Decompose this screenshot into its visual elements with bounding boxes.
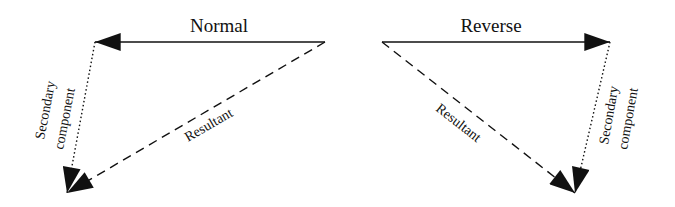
- reverse-title: Reverse: [460, 15, 521, 36]
- normal-title: Normal: [190, 15, 248, 36]
- reverse-diagram: Reverse Secondary component Resultant: [382, 15, 641, 193]
- reverse-resultant-arrow: [382, 42, 575, 193]
- normal-diagram: Normal Secondary component Resultant: [32, 15, 325, 193]
- normal-resultant-arrow: [67, 42, 325, 193]
- normal-resultant-label: Resultant: [182, 105, 235, 144]
- vector-diagram: Normal Secondary component Resultant Rev…: [0, 0, 675, 207]
- reverse-resultant-label: Resultant: [433, 101, 484, 145]
